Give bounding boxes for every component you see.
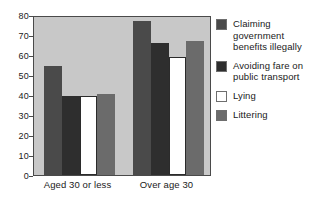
bar bbox=[133, 21, 151, 175]
plot-area bbox=[33, 16, 211, 176]
y-axis-tick-label: 80 bbox=[19, 12, 29, 21]
y-axis-tick-label: 50 bbox=[19, 72, 29, 81]
legend-item[interactable]: Avoiding fare on public transport bbox=[216, 60, 310, 83]
legend-item[interactable]: Littering bbox=[216, 109, 310, 121]
y-axis-tick-label: 10 bbox=[19, 152, 29, 161]
y-axis-tick-label: 20 bbox=[19, 132, 29, 141]
y-axis-tick-mark bbox=[29, 176, 33, 177]
legend-swatch-icon bbox=[216, 19, 227, 30]
x-axis: Aged 30 or lessOver age 30 bbox=[33, 179, 211, 197]
bar bbox=[44, 66, 62, 175]
bar bbox=[186, 41, 204, 175]
y-axis-tick-label: 70 bbox=[19, 32, 29, 41]
x-axis-category-label: Over age 30 bbox=[122, 179, 211, 197]
bar bbox=[97, 94, 115, 175]
legend-swatch-icon bbox=[216, 110, 227, 121]
legend-item[interactable]: Lying bbox=[216, 90, 310, 102]
bar bbox=[151, 43, 169, 175]
legend-item-label: Lying bbox=[233, 90, 256, 102]
legend-item-label: Littering bbox=[233, 109, 268, 121]
bar bbox=[62, 96, 80, 175]
legend-swatch-icon bbox=[216, 91, 227, 102]
legend-swatch-icon bbox=[216, 61, 227, 72]
bar-chart: 01020304050607080 Aged 30 or lessOver ag… bbox=[0, 0, 310, 199]
bar-group bbox=[44, 17, 115, 175]
bar bbox=[169, 57, 187, 176]
legend-item-label: Avoiding fare on public transport bbox=[233, 60, 310, 83]
x-axis-category-label: Aged 30 or less bbox=[33, 179, 122, 197]
legend-item-label: Claiming government benefits illegally bbox=[233, 18, 310, 53]
y-axis-tick-label: 60 bbox=[19, 52, 29, 61]
y-axis: 01020304050607080 bbox=[0, 10, 33, 182]
y-axis-tick-label: 30 bbox=[19, 112, 29, 121]
chart-legend: Claiming government benefits illegallyAv… bbox=[216, 18, 310, 128]
bar bbox=[80, 96, 98, 175]
y-axis-tick-label: 40 bbox=[19, 92, 29, 101]
legend-item[interactable]: Claiming government benefits illegally bbox=[216, 18, 310, 53]
bar-groups bbox=[34, 17, 210, 175]
bar-group bbox=[133, 17, 204, 175]
